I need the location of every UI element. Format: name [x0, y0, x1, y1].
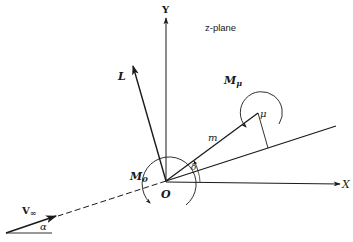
point-mu-label: μ — [260, 108, 267, 119]
origin-label: O — [161, 188, 171, 201]
airfoil-moment-diagram: z-plane Y X L V∞ α m μ Mμ δ M0 O — [0, 0, 353, 242]
alpha-arc-origin — [198, 171, 200, 182]
arm-m-line — [166, 113, 258, 181]
delta-label: δ — [191, 162, 196, 172]
x-axis — [166, 182, 340, 184]
lift-label: L — [117, 70, 126, 83]
plane-label: z-plane — [205, 22, 236, 33]
reference-line — [166, 126, 336, 181]
lift-vector — [133, 66, 166, 181]
freestream-vector — [6, 216, 56, 233]
y-axis-label: Y — [161, 4, 170, 15]
alpha-label: α — [40, 221, 47, 232]
moment-mu-label: Mμ — [223, 74, 242, 88]
arm-m-label: m — [208, 132, 217, 143]
x-axis-label: X — [341, 178, 351, 191]
freestream-label: V∞ — [21, 205, 36, 218]
moment-origin-label: M0 — [129, 170, 148, 184]
freestream-line-dashed — [58, 181, 166, 216]
